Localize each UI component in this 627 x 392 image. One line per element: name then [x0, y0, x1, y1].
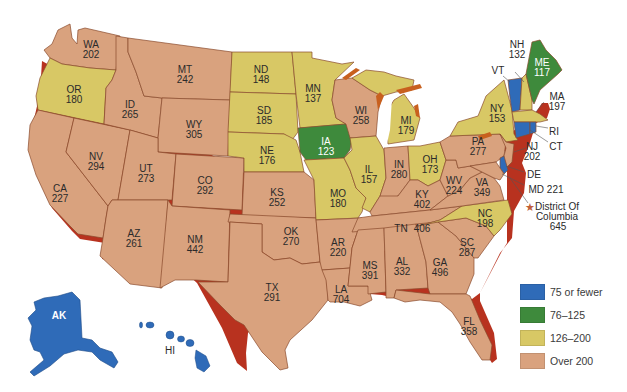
state-ak[interactable]	[28, 292, 118, 376]
label-nc-value: 198	[477, 218, 494, 229]
label-ks-value: 252	[269, 197, 286, 208]
legend-label: 126–200	[550, 332, 591, 344]
label-nv-value: 294	[88, 161, 105, 172]
legend-item-over-200: Over 200	[520, 353, 593, 369]
legend-swatch-blue	[520, 284, 545, 300]
label-wy-value: 305	[186, 129, 203, 140]
legend-swatch-tan	[520, 353, 545, 369]
label-me-value: 117	[534, 67, 550, 78]
label-il-value: 157	[361, 174, 378, 185]
label-sd-value: 185	[256, 115, 273, 126]
label-mt-value: 242	[177, 74, 194, 85]
label-nh-value: 132	[509, 49, 526, 60]
label-nd-value: 148	[253, 74, 270, 85]
label-ok-value: 270	[283, 236, 300, 247]
label-ct: CT	[549, 141, 562, 152]
label-wa-value: 202	[83, 49, 100, 60]
label-ma-value: 197	[549, 101, 566, 112]
label-oh-value: 173	[422, 164, 439, 175]
legend-swatch-yellow	[520, 330, 545, 346]
label-de: DE	[527, 169, 541, 180]
label-mi-value: 179	[398, 125, 415, 136]
label-ia-value: 123	[318, 146, 335, 157]
label-hi: HI	[165, 345, 175, 356]
label-ny-value: 153	[489, 113, 506, 124]
label-va-value: 349	[474, 187, 491, 198]
label-ri: RI	[549, 126, 559, 137]
label-tn-value: 406	[414, 223, 431, 234]
label-md: MD 221	[528, 184, 563, 195]
label-wi-value: 258	[353, 115, 370, 126]
label-nj-value: 202	[524, 151, 541, 162]
legend-swatch-green	[520, 307, 545, 323]
label-ky-value: 402	[414, 199, 431, 210]
label-sc-value: 287	[459, 247, 476, 258]
label-ga-value: 496	[432, 267, 449, 278]
label-nm-value: 442	[187, 244, 204, 255]
label-al-value: 332	[394, 266, 411, 277]
label-ms-value: 391	[362, 270, 379, 281]
legend-label: Over 200	[550, 355, 593, 367]
legend-item-76-125: 76–125	[520, 307, 585, 323]
label-fl-value: 358	[461, 326, 478, 337]
label-or-value: 180	[66, 94, 83, 105]
label-pa-value: 277	[470, 146, 487, 157]
dc-star-icon: ★	[525, 201, 535, 213]
label-mn-value: 137	[305, 93, 322, 104]
label-ca-value: 227	[52, 193, 69, 204]
label-mo-value: 180	[330, 198, 347, 209]
label-dc-value: 645	[550, 221, 567, 232]
label-az-value: 261	[126, 238, 143, 249]
label-vt: VT	[492, 65, 505, 76]
label-wv-value: 224	[446, 185, 463, 196]
label-ak: AK	[52, 310, 67, 321]
label-in-value: 280	[391, 169, 408, 180]
label-tn-abbr: TN	[394, 223, 407, 234]
legend-label: 75 or fewer	[550, 286, 603, 298]
label-ut-value: 273	[138, 173, 155, 184]
label-ne-value: 176	[259, 155, 276, 166]
label-id-value: 265	[122, 109, 139, 120]
label-ar-value: 220	[330, 247, 347, 258]
label-tx-value: 291	[264, 292, 281, 303]
legend-item-75-or-fewer: 75 or fewer	[520, 284, 603, 300]
legend-label: 76–125	[550, 309, 585, 321]
label-co-value: 292	[197, 185, 214, 196]
state-ny[interactable]	[450, 80, 518, 142]
legend-item-126-200: 126–200	[520, 330, 591, 346]
label-la-value: 704	[333, 294, 350, 305]
